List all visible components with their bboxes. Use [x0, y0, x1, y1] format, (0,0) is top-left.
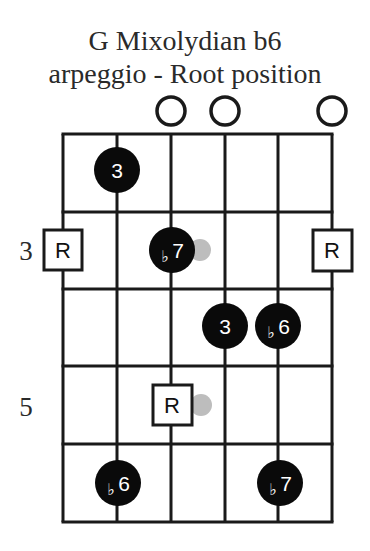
svg-text:R: R — [55, 238, 71, 263]
note-dot-flat-7: ♭ 7 — [257, 460, 303, 506]
svg-text:7: 7 — [280, 472, 292, 495]
svg-text:7: 7 — [172, 239, 184, 262]
note-dot-flat-7: ♭ 7 — [149, 227, 195, 273]
svg-text:6: 6 — [278, 315, 290, 338]
root-box: R — [153, 385, 192, 425]
svg-text:♭: ♭ — [107, 480, 115, 499]
note-dot-flat-6: ♭ 6 — [95, 460, 141, 506]
open-string-icon — [211, 97, 239, 125]
root-box: R — [44, 230, 82, 270]
note-dot-flat-6: ♭ 6 — [255, 303, 301, 349]
root-box: R — [313, 230, 352, 271]
svg-text:3: 3 — [111, 159, 123, 182]
svg-text:♭: ♭ — [161, 247, 169, 266]
svg-text:R: R — [324, 238, 340, 263]
open-string-icon — [157, 97, 185, 125]
open-string-markers — [157, 97, 346, 125]
svg-text:♭: ♭ — [269, 480, 277, 499]
fretboard-diagram: 3 R ♭ 7 R 3 ♭ 6 R ♭ 6 ♭ 7 — [0, 0, 370, 551]
svg-text:6: 6 — [118, 472, 130, 495]
svg-text:♭: ♭ — [267, 323, 275, 342]
note-dot-3: 3 — [202, 303, 248, 349]
svg-text:3: 3 — [219, 315, 231, 338]
open-string-icon — [318, 97, 346, 125]
note-dot-3: 3 — [94, 147, 140, 193]
svg-text:R: R — [164, 393, 180, 418]
